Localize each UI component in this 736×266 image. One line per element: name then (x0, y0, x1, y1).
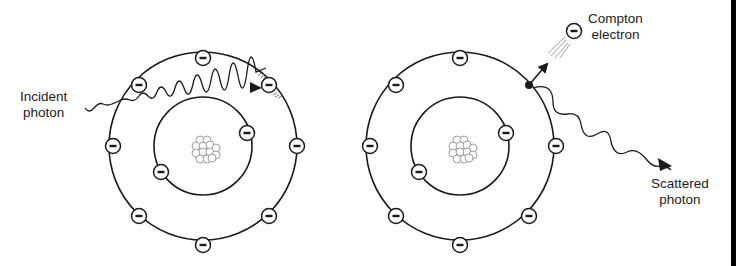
electron-icon (453, 51, 468, 66)
nucleus-icon (449, 136, 477, 163)
frame-border (731, 0, 736, 266)
left-atom (85, 51, 305, 253)
electron-icon (290, 139, 305, 154)
target-electron-icon (262, 78, 277, 93)
label-line: Compton (588, 11, 643, 27)
electron-icon (389, 78, 404, 93)
label-line: photon (20, 105, 67, 121)
compton-electron-arrow (529, 64, 547, 85)
compton-scattering-diagram: Incident photon Compton electron Scatter… (0, 0, 736, 266)
electron-icon (522, 209, 537, 224)
electron-icon (240, 126, 255, 141)
label-line: photon (651, 192, 709, 208)
incident-photon-label: Incident photon (20, 89, 67, 121)
electron-icon (196, 51, 211, 66)
label-line: electron (588, 27, 643, 43)
electron-icon (154, 165, 169, 180)
electron-icon (262, 209, 277, 224)
electron-icon (106, 139, 121, 154)
electron-icon (389, 209, 404, 224)
incident-photon-wave (85, 57, 266, 111)
electron-icon (453, 238, 468, 253)
electron-icon (549, 139, 564, 154)
label-line: Incident (20, 89, 67, 105)
electron-icon (196, 238, 211, 253)
electron-icon (499, 126, 514, 141)
compton-electron-icon (567, 24, 582, 39)
label-line: Scattered (651, 176, 709, 192)
electron-icon (363, 139, 378, 154)
electron-icon (412, 165, 427, 180)
electron-icon (132, 209, 147, 224)
right-atom (363, 24, 673, 253)
compton-electron-label: Compton electron (588, 11, 643, 43)
electron-icon (132, 78, 147, 93)
nucleus-icon (192, 136, 220, 163)
scattered-photon-label: Scattered photon (651, 176, 709, 208)
incident-photon-arrowhead (250, 82, 262, 93)
